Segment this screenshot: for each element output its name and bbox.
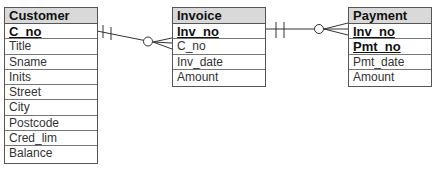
- attribute: Balance: [5, 146, 97, 161]
- attribute: Amount: [173, 70, 265, 85]
- attribute: C_no: [173, 39, 265, 54]
- attribute-pk: C_no: [5, 24, 97, 39]
- crowfoot-icon: [153, 38, 172, 42]
- attribute: Inits: [5, 70, 97, 85]
- relationship-invoice-payment: [265, 22, 348, 38]
- attribute: Street: [5, 85, 97, 100]
- zero-circle-icon: [315, 25, 324, 34]
- attribute: Postcode: [5, 116, 97, 131]
- attribute: City: [5, 100, 97, 115]
- attribute: Pmt_date: [349, 55, 431, 70]
- entity-payment: Payment Inv_no Pmt_no Pmt_date Amount: [348, 7, 432, 87]
- attribute: Amount: [349, 70, 431, 85]
- entity-title: Payment: [349, 8, 431, 24]
- attribute: Inv_date: [173, 55, 265, 70]
- relationship-customer-invoice: [97, 25, 172, 49]
- attribute: Sname: [5, 55, 97, 70]
- attribute-pk: Inv_no: [173, 24, 265, 39]
- attribute-pk: Inv_no: [349, 24, 431, 39]
- entity-invoice: Invoice Inv_no C_no Inv_date Amount: [172, 7, 266, 87]
- attribute-pk: Pmt_no: [349, 39, 431, 54]
- attribute: Title: [5, 39, 97, 54]
- zero-circle-icon: [144, 37, 153, 46]
- entity-title: Customer: [5, 8, 97, 24]
- crowfoot-icon: [324, 23, 348, 29]
- entity-customer: Customer C_no Title Sname Inits Street C…: [4, 7, 98, 164]
- attribute: Cred_lim: [5, 131, 97, 146]
- entity-title: Invoice: [173, 8, 265, 24]
